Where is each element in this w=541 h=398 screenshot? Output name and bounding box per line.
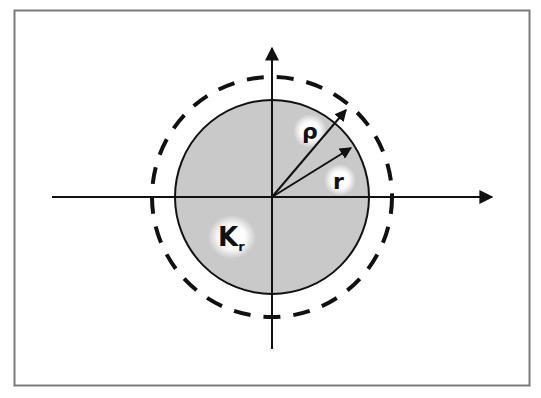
rho-label: ρ — [302, 119, 318, 144]
r-label: r — [333, 169, 344, 194]
kr-label-main: K — [218, 222, 239, 252]
diagram-canvas: ρ r Kr — [0, 0, 541, 398]
kr-label-subscript: r — [238, 239, 245, 254]
